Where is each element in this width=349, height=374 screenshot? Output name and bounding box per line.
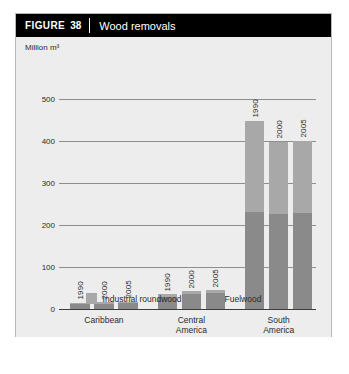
y-tick-label-0: 0 [51, 305, 55, 314]
figure-label: FIGURE [16, 20, 65, 31]
bar-south-america-2005 [293, 141, 312, 309]
bar-year-label-south-america-1990: 1990 [251, 99, 260, 118]
y-axis-tick-labels: 0100200300400500 [25, 99, 55, 309]
figure-title: Wood removals [90, 20, 175, 32]
bar-south-america-1990 [245, 121, 264, 309]
y-tick-label-500: 500 [42, 95, 55, 104]
segment-industrial-roundwood [293, 141, 312, 213]
bar-year-label-central-america-1990: 1990 [163, 273, 172, 292]
y-axis-unit-label: Million m³ [25, 43, 59, 52]
y-tick-label-200: 200 [42, 221, 55, 230]
chart-legend: Industrial roundwoodFuelwood [16, 293, 331, 304]
segment-industrial-roundwood [245, 121, 264, 213]
gridline-500 [59, 99, 316, 100]
segment-fuelwood [70, 304, 89, 309]
bar-year-label-central-america-2005: 2005 [211, 269, 220, 288]
segment-industrial-roundwood [269, 142, 288, 214]
figure-panel: FIGURE 38 Wood removals Million m³ 01002… [15, 13, 332, 337]
y-tick-label-300: 300 [42, 179, 55, 188]
legend-item-industrial-roundwood: Industrial roundwood [86, 293, 182, 304]
bar-year-label-central-america-2000: 2000 [187, 270, 196, 289]
x-axis-line [59, 309, 316, 310]
legend-swatch [86, 293, 97, 304]
segment-fuelwood [94, 304, 113, 309]
bar-year-label-south-america-2005: 2005 [299, 119, 308, 138]
plot-area: 199020002005Caribbean199020002005Central… [59, 99, 316, 309]
legend-swatch [208, 293, 219, 304]
bar-south-america-2000 [269, 142, 288, 309]
y-tick-label-400: 400 [42, 137, 55, 146]
y-tick-label-100: 100 [42, 263, 55, 272]
legend-label: Fuelwood [225, 294, 262, 304]
chart-body: Million m³ 0100200300400500 199020002005… [16, 37, 331, 337]
group-label-south-america: South America [229, 315, 329, 335]
group-label-caribbean: Caribbean [54, 315, 154, 325]
legend-item-fuelwood: Fuelwood [208, 293, 262, 304]
group-label-central-america: Central America [141, 315, 241, 335]
segment-fuelwood [118, 303, 137, 309]
figure-number: 38 [65, 20, 89, 31]
figure-header: FIGURE 38 Wood removals [16, 14, 331, 37]
bar-year-label-south-america-2000: 2000 [275, 120, 284, 139]
legend-label: Industrial roundwood [103, 294, 182, 304]
